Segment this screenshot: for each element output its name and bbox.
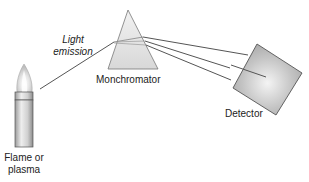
light-emission-line1: Light <box>48 34 98 46</box>
light-emission-label: Light emission <box>48 34 98 58</box>
dispersed-beam-1 <box>143 37 248 55</box>
monochromator-label: Monchromator <box>96 74 160 86</box>
flame-burner-icon <box>15 64 33 147</box>
monochromator-prism-icon <box>108 10 158 69</box>
source-label: Flame or plasma <box>0 152 48 176</box>
source-label-line2: plasma <box>0 164 48 176</box>
detector-label: Detector <box>225 108 263 120</box>
source-label-line1: Flame or <box>0 152 48 164</box>
light-emission-line2: emission <box>48 46 98 58</box>
